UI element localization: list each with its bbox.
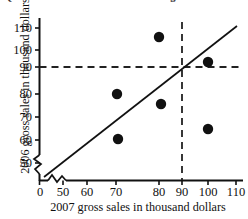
data-points bbox=[112, 32, 213, 144]
x-tick-label-90: 90 bbox=[170, 186, 194, 199]
y-axis bbox=[34, 18, 41, 181]
data-point bbox=[112, 89, 122, 99]
data-point bbox=[203, 124, 213, 134]
scatter-plot-figure: Questions 21-22 refer to the following i… bbox=[0, 0, 248, 219]
data-point bbox=[156, 99, 166, 109]
y-axis-title: 2006 gross sales in thousand dollars bbox=[18, 0, 33, 174]
x-tick-label-110: 110 bbox=[222, 186, 248, 199]
y-axis-title-wrapper: 2006 gross sales in thousand dollars bbox=[18, 0, 34, 174]
x-tick-label-50: 50 bbox=[51, 186, 75, 199]
x-tick-label-80: 80 bbox=[147, 186, 171, 199]
data-point bbox=[154, 32, 164, 42]
x-tick-label-70: 70 bbox=[104, 186, 128, 199]
x-axis bbox=[40, 175, 244, 182]
data-point bbox=[203, 57, 213, 67]
x-axis-title: 2007 gross sales in thousand dollars bbox=[28, 200, 248, 215]
x-tick-label-100: 100 bbox=[194, 186, 222, 199]
x-tick-label-0: 0 bbox=[30, 186, 50, 199]
x-tick-label-60: 60 bbox=[75, 186, 99, 199]
trend-line bbox=[44, 26, 237, 177]
data-point bbox=[113, 134, 123, 144]
